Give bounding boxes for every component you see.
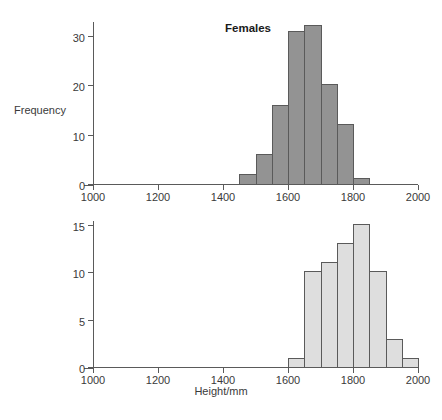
- y-axis-title-females: Frequency: [14, 104, 66, 116]
- y-tick: [88, 225, 93, 226]
- x-tick-label: 1200: [146, 374, 170, 386]
- x-tick: [158, 185, 159, 190]
- figure-caption: [8, 412, 438, 420]
- x-tick: [158, 368, 159, 373]
- histogram-bar: [402, 358, 419, 368]
- histogram-bar: [288, 31, 305, 185]
- y-tick-label: 0: [79, 363, 85, 375]
- histogram-bar: [304, 271, 321, 368]
- histogram-bar: [369, 271, 386, 368]
- x-tick: [223, 368, 224, 373]
- plot-area-females: 100012001400160018002000 0102030: [93, 22, 418, 185]
- y-tick: [88, 135, 93, 136]
- y-tick: [88, 272, 93, 273]
- histogram-bar: [256, 154, 273, 185]
- x-axis-extension-females: [84, 185, 93, 186]
- x-axis-title: Height/mm: [194, 385, 247, 397]
- y-axis-line-females: [93, 22, 94, 185]
- panel-females: Frequency Females 1000120014001600180020…: [0, 0, 442, 200]
- y-tick-label: 15: [73, 221, 85, 233]
- x-axis-extension-males: [84, 368, 93, 369]
- y-tick: [88, 85, 93, 86]
- x-tick: [223, 185, 224, 190]
- y-tick: [88, 367, 93, 368]
- x-tick: [353, 368, 354, 373]
- y-axis-line-males: [93, 221, 94, 368]
- x-tick: [418, 368, 419, 373]
- histogram-bar: [353, 178, 370, 185]
- histogram-bar: [321, 84, 338, 185]
- x-tick-label: 2000: [406, 374, 430, 386]
- histogram-bar: [353, 224, 370, 368]
- histogram-figure: Frequency Females 1000120014001600180020…: [0, 0, 442, 420]
- x-tick: [93, 368, 94, 373]
- y-tick-label: 20: [73, 81, 85, 93]
- y-tick: [88, 184, 93, 185]
- x-tick: [288, 368, 289, 373]
- histogram-bar: [386, 339, 403, 368]
- histogram-bar: [337, 243, 354, 368]
- y-tick-label: 30: [73, 32, 85, 44]
- x-tick-label: 1800: [341, 374, 365, 386]
- histogram-bar: [272, 105, 289, 185]
- x-tick-label: 1000: [81, 374, 105, 386]
- x-tick-label: 1600: [276, 374, 300, 386]
- y-tick-label: 0: [79, 180, 85, 192]
- y-tick-label: 5: [79, 316, 85, 328]
- y-tick-label: 10: [73, 268, 85, 280]
- histogram-bar: [288, 358, 305, 368]
- y-tick: [88, 36, 93, 37]
- histogram-bar: [337, 124, 354, 185]
- histogram-bar: [304, 25, 321, 185]
- x-tick: [418, 185, 419, 190]
- x-tick: [353, 185, 354, 190]
- x-tick: [288, 185, 289, 190]
- y-tick-label: 10: [73, 131, 85, 143]
- y-tick: [88, 320, 93, 321]
- histogram-bar: [321, 262, 338, 368]
- plot-area-males: 100012001400160018002000 051015: [93, 221, 418, 368]
- x-tick: [93, 185, 94, 190]
- histogram-bar: [239, 174, 256, 185]
